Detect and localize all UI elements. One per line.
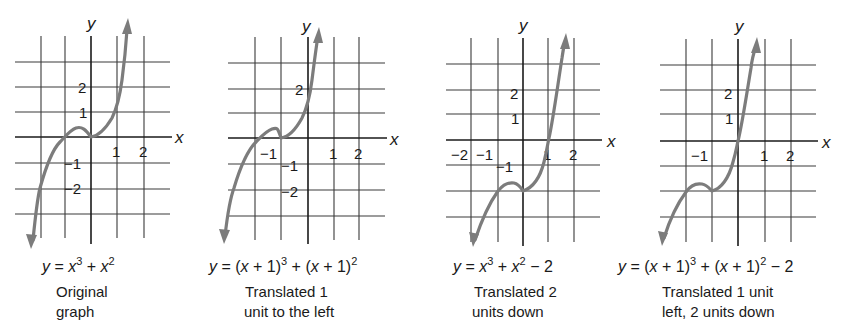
equation: y = x3 + x2 − 2 [452,255,553,275]
caption-line-2: graph [56,303,94,320]
caption-line-2: units down [472,303,544,320]
caption-line-1: Translated 2 [474,283,557,300]
caption-line-1: Translated 1 [245,283,328,300]
y-tick-1: 1 [725,110,733,127]
x-tick-2: 2 [786,147,794,164]
x-tick-minus-1: −1 [260,145,277,162]
x-tick-minus-2: −2 [451,146,468,163]
x-tick-minus-1: −1 [691,147,708,164]
x-axis-label: x [821,133,831,152]
x-axis-label: x [389,130,399,149]
y-tick-1: 1 [511,110,519,127]
x-tick-2: 2 [139,143,147,160]
panel-translated-left-down: y x −1 1 2 2 1 y = (x + 1)3 + (x + 1)2 −… [617,17,831,320]
x-axis-label: x [174,128,184,147]
cubic-curve [225,36,318,236]
y-axis-label: y [734,17,745,36]
y-tick-minus-2: −2 [281,183,298,200]
equation: y = x3 + x2 [41,255,115,275]
x-axis-label: x [606,132,616,151]
y-axis-label: y [301,17,312,36]
arrowhead-down-icon [658,231,668,246]
y-tick-2: 2 [510,85,518,102]
arrowhead-up-icon [751,37,761,53]
caption-line-2: unit to the left [244,303,335,320]
x-tick-minus-1: −1 [476,146,493,163]
translations-figure: y x 1 2 2 1 −1 −2 y = x3 + x2 Original g… [0,0,861,329]
y-tick-2: 2 [78,79,86,96]
caption-line-2: left, 2 units down [662,303,775,320]
equation: y = (x + 1)3 + (x + 1)2 − 2 [617,255,794,275]
arrowhead-down-icon [219,229,230,244]
x-tick-1: 1 [329,145,337,162]
x-tick-2: 2 [569,146,577,163]
arrowhead-up-icon [122,18,132,34]
y-tick-2: 2 [724,85,732,102]
x-tick-2: 2 [354,145,362,162]
caption-line-1: Translated 1 unit [662,283,774,300]
arrowhead-down-icon [26,234,37,249]
cubic-curve [475,42,565,240]
y-axis-label: y [518,16,529,35]
arrowhead-up-icon [313,27,323,43]
y-tick-minus-1: −1 [496,158,513,175]
y-tick-1: 1 [79,104,87,121]
arrowhead-up-icon [560,33,570,49]
y-tick-minus-2: −2 [64,180,81,197]
caption-line-1: Original [56,283,108,300]
x-tick-1: 1 [112,143,120,160]
cubic-curve [664,46,756,238]
y-tick-minus-1: −1 [281,157,298,174]
x-tick-1: 1 [760,147,768,164]
y-tick-2: 2 [295,81,303,98]
equation: y = (x + 1)3 + (x + 1)2 [208,255,357,275]
panel-original: y x 1 2 2 1 −1 −2 y = x3 + x2 Original g… [15,14,184,320]
panel-translated-left: y x −1 1 2 2 −1 −2 y = (x + 1)3 + (x + 1… [208,17,399,320]
y-axis-label: y [86,14,97,33]
panel-translated-down: y x −2 −1 1 2 2 1 −1 y = x3 + x2 − 2 Tra… [446,16,616,320]
y-tick-minus-1: −1 [64,155,81,172]
